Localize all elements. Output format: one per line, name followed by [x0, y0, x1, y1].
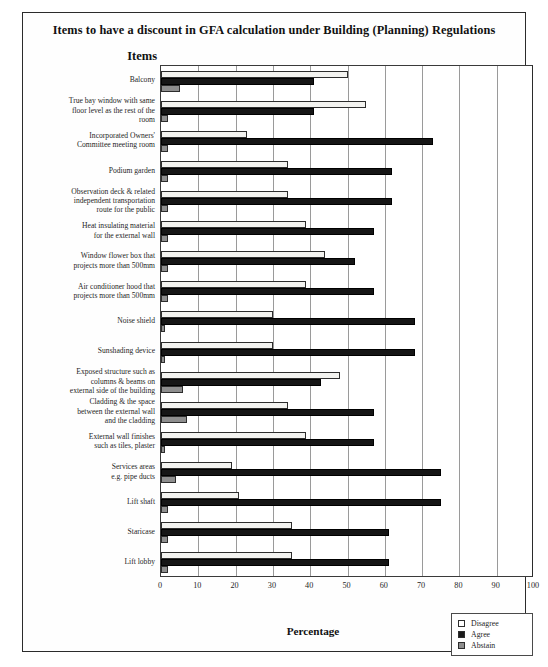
bar-agree — [161, 379, 321, 386]
chart-page-frame: Items to have a discount in GFA calculat… — [22, 12, 526, 652]
bar-disagree — [161, 552, 292, 559]
legend-label: Disagree — [471, 619, 499, 628]
bar-agree — [161, 78, 314, 85]
bar-disagree — [161, 462, 232, 469]
y-tick-label-line: Observation deck & related — [43, 187, 155, 196]
y-axis-tick-labels: BalconyTrue bay window with samefloor le… — [43, 65, 155, 577]
x-tick-label-50: 50 — [332, 581, 362, 590]
y-tick-label: Incorporated Owners'Committee meeting ro… — [43, 131, 155, 150]
bar-group — [161, 397, 532, 427]
bar-abstain — [161, 536, 168, 543]
bar-group — [161, 247, 532, 277]
bar-abstain — [161, 506, 168, 513]
bar-abstain — [161, 295, 168, 302]
bar-disagree — [161, 71, 348, 78]
bar-agree — [161, 318, 415, 325]
bar-group — [161, 337, 532, 367]
y-tick-label-line: Cladding & the space — [43, 397, 155, 406]
y-tick-label-line: Services areas — [43, 462, 155, 471]
y-tick-label: Lift shaft — [43, 497, 155, 506]
y-tick-label: Staricase — [43, 527, 155, 536]
y-tick-label-line: columns & beams on — [43, 377, 155, 386]
y-tick-label-line: and the cladding — [43, 416, 155, 425]
y-tick-label-line: independent transportation — [43, 196, 155, 205]
y-tick-label: Cladding & the spacebetween the external… — [43, 397, 155, 425]
bar-group — [161, 488, 532, 518]
y-tick-label-line: Staricase — [43, 527, 155, 536]
x-tick-label-10: 10 — [182, 581, 212, 590]
legend-entry: Abstain — [458, 640, 527, 651]
x-axis-title: Percentage — [223, 625, 403, 637]
bar-abstain — [161, 205, 168, 212]
y-tick-label-line: Window flower box that — [43, 251, 155, 260]
bar-agree — [161, 469, 441, 476]
y-tick-label: Noise shield — [43, 316, 155, 325]
bar-agree — [161, 499, 441, 506]
y-tick-label-line: for the external wall — [43, 231, 155, 240]
y-tick-label: True bay window with samefloor level as … — [43, 96, 155, 124]
bar-abstain — [161, 145, 168, 152]
y-tick-label-line: Heat insulating material — [43, 221, 155, 230]
y-tick-label: Sunshading device — [43, 346, 155, 355]
y-tick-label-line: external side of the building — [43, 386, 155, 395]
x-tick-label-90: 90 — [481, 581, 511, 590]
bar-group — [161, 96, 532, 126]
bar-disagree — [161, 131, 247, 138]
bar-group — [161, 126, 532, 156]
y-tick-label-line: Committee meeting room — [43, 140, 155, 149]
bar-disagree — [161, 191, 288, 198]
bar-abstain — [161, 325, 165, 332]
bar-disagree — [161, 251, 325, 258]
bar-disagree — [161, 522, 292, 529]
legend-label: Abstain — [471, 641, 495, 650]
y-tick-label: Podium garden — [43, 166, 155, 175]
bar-group — [161, 548, 532, 578]
y-tick-label-line: Incorporated Owners' — [43, 131, 155, 140]
y-tick-label-line: Podium garden — [43, 166, 155, 175]
x-axis-tick-labels: 0102030405060708090100 — [160, 581, 533, 595]
y-tick-label-line: True bay window with same — [43, 96, 155, 105]
x-tick-label-70: 70 — [406, 581, 436, 590]
bar-abstain — [161, 265, 168, 272]
bar-abstain — [161, 416, 187, 423]
bar-group — [161, 518, 532, 548]
y-tick-label-line: Lift lobby — [43, 557, 155, 566]
white-square-icon — [458, 620, 465, 627]
bar-rows — [161, 66, 532, 576]
bar-agree — [161, 138, 433, 145]
x-tick-label-80: 80 — [443, 581, 473, 590]
bar-disagree — [161, 161, 288, 168]
x-tick-label-20: 20 — [220, 581, 250, 590]
chart-legend: DisagreeAgreeAbstain — [451, 613, 533, 656]
bar-agree — [161, 349, 415, 356]
bar-agree — [161, 108, 314, 115]
legend-entry: Disagree — [458, 618, 527, 629]
bar-abstain — [161, 476, 176, 483]
bar-abstain — [161, 356, 165, 363]
bar-agree — [161, 258, 355, 265]
bar-group — [161, 186, 532, 216]
bar-group — [161, 458, 532, 488]
bar-abstain — [161, 566, 168, 573]
y-tick-label-line: Sunshading device — [43, 346, 155, 355]
chart-title: Items to have a discount in GFA calculat… — [23, 23, 525, 38]
y-tick-label: Heat insulating materialfor the external… — [43, 221, 155, 240]
y-tick-label: Lift lobby — [43, 557, 155, 566]
bar-disagree — [161, 372, 340, 379]
bar-disagree — [161, 402, 288, 409]
bar-disagree — [161, 492, 239, 499]
x-tick-label-100: 100 — [518, 581, 548, 590]
bar-agree — [161, 559, 389, 566]
bar-agree — [161, 168, 392, 175]
bar-group — [161, 217, 532, 247]
y-tick-label-line: projects more than 500mm — [43, 291, 155, 300]
y-tick-label: Balcony — [43, 75, 155, 84]
gray-square-icon — [458, 642, 465, 649]
bar-agree — [161, 439, 374, 446]
bar-agree — [161, 288, 374, 295]
x-tick-label-60: 60 — [369, 581, 399, 590]
bar-agree — [161, 529, 389, 536]
bar-group — [161, 156, 532, 186]
y-tick-label: Window flower box thatprojects more than… — [43, 251, 155, 270]
y-tick-label-line: floor level as the rest of the — [43, 106, 155, 115]
